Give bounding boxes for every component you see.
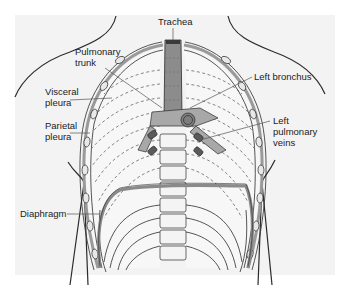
label-trachea: Trachea bbox=[158, 16, 193, 27]
vertebral-column bbox=[160, 134, 186, 260]
label-diaphragm: Diaphragm bbox=[20, 208, 66, 219]
label-pulmonary-trunk: Pulmonary trunk bbox=[75, 46, 120, 68]
label-left-bronchus: Left bronchus bbox=[254, 71, 312, 82]
label-parietal-pleura: Parietal pleura bbox=[45, 120, 77, 142]
trachea bbox=[164, 40, 182, 118]
label-visceral-pleura: Visceral pleura bbox=[45, 86, 79, 108]
thorax-diagram bbox=[0, 0, 342, 300]
label-left-pulmonary-veins: Left pulmonary veins bbox=[273, 115, 317, 148]
